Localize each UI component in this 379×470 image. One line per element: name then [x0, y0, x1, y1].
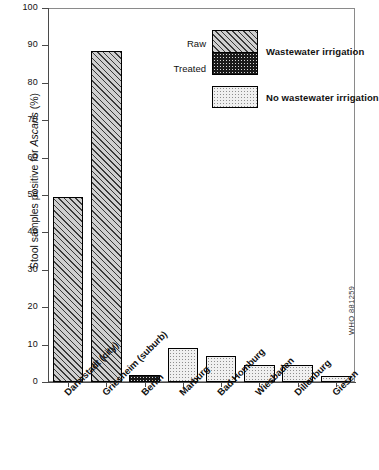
y-tick-label: 10: [28, 340, 38, 349]
y-tick-label: 20: [28, 302, 38, 311]
legend-swatch-raw: [212, 30, 258, 52]
legend-swatch-treated: [212, 52, 258, 75]
y-tick-label: 70: [28, 115, 38, 124]
y-tick-label: 0: [33, 377, 38, 386]
legend-sublabel-treated: Treated: [138, 63, 206, 74]
legend-swatch-no-wastewater: [212, 86, 258, 108]
y-axis-title-pre: Stool samples positive for: [28, 147, 40, 270]
who-reference-code: WHO 881259: [347, 286, 356, 335]
legend-label-wastewater-irrigation: Wastewater irrigation: [266, 46, 364, 57]
y-tick-label: 80: [28, 78, 38, 87]
y-axis-title-post: (%): [28, 93, 40, 112]
y-tick-label: 30: [28, 265, 38, 274]
y-tick-label: 40: [28, 227, 38, 236]
legend-sublabel-raw: Raw: [150, 38, 206, 49]
bar-griesheim-suburb: [91, 51, 122, 382]
legend-label-no-wastewater-irrigation: No wastewater irrigation: [266, 92, 379, 103]
y-tick-label: 60: [28, 153, 38, 162]
y-tick-label: 50: [28, 190, 38, 199]
y-tick-label: 90: [28, 40, 38, 49]
y-tick-label: 100: [22, 3, 38, 12]
bar-darmstadt-city: [53, 197, 84, 382]
